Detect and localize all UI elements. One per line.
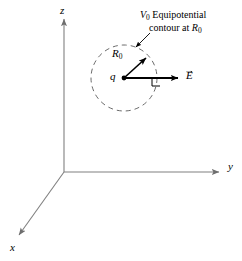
right-angle-marker <box>152 78 160 86</box>
radius-vector-line <box>124 58 146 78</box>
x-axis-label: x <box>10 241 15 253</box>
y-axis-label: y <box>228 160 233 172</box>
radius-label: R0 <box>112 47 122 61</box>
radius-label-base: R <box>112 47 119 59</box>
radius-label-subscript: 0 <box>119 52 123 61</box>
charge-label: q <box>110 70 116 82</box>
vector-arrow-icon <box>186 69 193 74</box>
charge-point-marker <box>122 76 127 81</box>
physics-diagram: z y x q R0 E V0 Equipotential contour at… <box>0 0 242 261</box>
caption-line-1-text: Equipotential <box>152 9 206 20</box>
contour-caption: V0 Equipotential contour at R0 <box>140 9 206 36</box>
field-label: E <box>186 69 193 81</box>
caption-line-1: V0 Equipotential <box>140 9 206 20</box>
x-axis <box>19 172 64 235</box>
caption-line-2: contour at R0 <box>140 22 206 35</box>
z-axis-label: z <box>60 4 64 16</box>
caption-line-2-text: contour at <box>149 22 192 33</box>
caption-radius-subscript: 0 <box>198 27 202 36</box>
field-label-vector-group: E <box>186 69 193 81</box>
caption-potential-subscript: 0 <box>146 13 150 22</box>
diagram-canvas <box>0 0 242 261</box>
